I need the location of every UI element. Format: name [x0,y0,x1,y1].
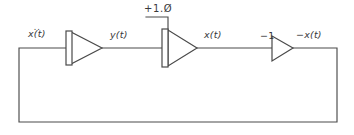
label-inverted-signal: −x(t) [296,30,322,40]
integrator-2-triangle [168,30,197,66]
integrator-1-input-bar [66,31,72,65]
inverter-1-triangle [272,36,293,61]
label-input-signal: .. x(t) [28,29,46,39]
label-output-signal: x(t) [204,30,222,40]
integrator-1-triangle [71,32,102,64]
double-dot-accent-wrapper: .. x(t) [28,29,46,39]
label-initial-condition: +1.Ø [144,4,172,14]
integrator-2-block [162,29,197,67]
block-diagram-svg [0,0,354,135]
integrator-1-block [66,31,102,65]
double-dot-accent-icon: .. [29,24,47,32]
inverter-1-block [272,36,293,61]
label-intermediate-signal: y(t) [110,30,128,40]
diagram-canvas: .. x(t) y(t) x(t) −x(t) −1 +1.Ø [0,0,354,135]
integrator-2-input-bar [162,29,168,67]
label-inverter-gain: −1 [260,31,274,41]
